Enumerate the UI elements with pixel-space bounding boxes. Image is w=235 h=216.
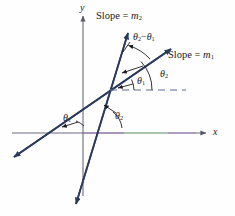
slope-m2-prefix: Slope = xyxy=(96,10,131,21)
theta2-x-sub: 2 xyxy=(120,114,123,121)
arc-theta2-minus-theta1 xyxy=(129,46,151,60)
theta1-int-sub: 1 xyxy=(142,79,145,86)
slope-m2-subscript: 2 xyxy=(139,14,142,21)
theta1-x-sub: 1 xyxy=(68,116,71,123)
theta1-x-axis-label: θ1 xyxy=(63,113,71,123)
theta2-intersection-label: θ2 xyxy=(160,69,168,79)
theta1-intersection-label: θ1 xyxy=(137,76,145,86)
theta2-int-sub: 2 xyxy=(165,72,168,79)
slope-m1-subscript: 1 xyxy=(211,53,214,60)
slope-m1-label: Slope = m1 xyxy=(168,50,214,61)
slope-m1-symbol: m xyxy=(203,49,211,60)
theta2-minus-theta1-label: θ2−θ1 xyxy=(133,32,155,42)
line-m1-stroke-right xyxy=(14,49,171,157)
slope-m2-label: Slope = m2 xyxy=(96,11,142,22)
line-m1 xyxy=(14,49,171,157)
geometry-figure: Slope = m2 Slope = m1 θ2−θ1 θ1 θ2 θ1 θ2 … xyxy=(0,0,235,216)
y-axis-label: y xyxy=(80,3,84,13)
slope-m1-prefix: Slope = xyxy=(168,49,203,60)
theta2-x-axis-label: θ2 xyxy=(115,111,123,121)
figure-canvas xyxy=(0,0,235,216)
slope-m2-symbol: m xyxy=(131,10,139,21)
theta-diff-sub-2: 1 xyxy=(152,35,155,42)
x-axis-label: x xyxy=(213,127,217,137)
